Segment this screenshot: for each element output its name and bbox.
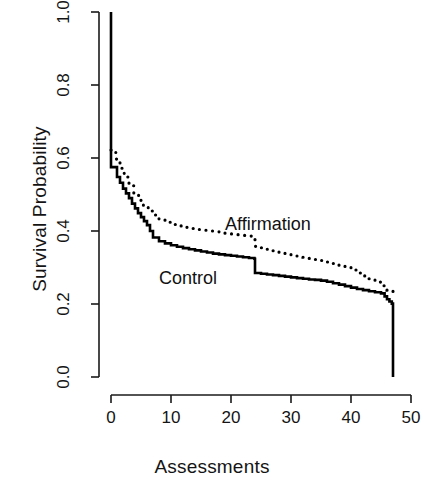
x-tick-label: 50 (391, 408, 424, 428)
y-tick-label: 0.2 (54, 284, 74, 324)
y-tick-label: 0.8 (54, 65, 74, 105)
x-tick-label: 0 (91, 408, 131, 428)
series-label-control: Control (159, 268, 217, 289)
y-tick-label: 0.4 (54, 211, 74, 251)
x-axis-title: Assessments (0, 456, 424, 478)
x-tick-label: 20 (211, 408, 251, 428)
y-tick-label: 0.6 (54, 138, 74, 178)
y-tick-label: 0.0 (54, 357, 74, 397)
data-series-layer (111, 12, 393, 377)
survival-plot-figure: Survival Probability Assessments 0.00.20… (0, 0, 424, 487)
y-tick-label: 1.0 (54, 0, 74, 32)
series-label-affirmation: Affirmation (225, 214, 311, 235)
series-path-control (111, 12, 393, 377)
x-tick-label: 10 (151, 408, 191, 428)
x-tick-label: 30 (271, 408, 311, 428)
y-axis-title: Survival Probability (29, 84, 51, 334)
x-tick-label: 40 (331, 408, 371, 428)
